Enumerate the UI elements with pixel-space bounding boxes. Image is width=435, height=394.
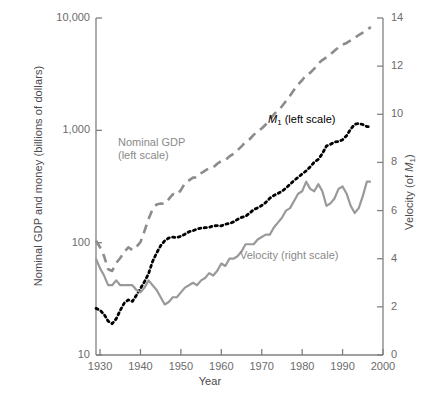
y-tick-label-right: 12	[391, 59, 403, 71]
x-tick-label: 1950	[165, 360, 197, 372]
y-axis-right-title: Velocity (of M1)	[403, 112, 417, 272]
x-tick-label: 1930	[84, 360, 116, 372]
series-label-m1-suffix: (left scale)	[282, 113, 336, 125]
x-tick-label: 2000	[367, 360, 399, 372]
series-label-nominal-gdp-line2: (left scale)	[118, 149, 185, 162]
y-tick-label-right: 10	[391, 107, 403, 119]
x-tick-label: 1970	[246, 360, 278, 372]
y-tick-label-right: 4	[391, 252, 397, 264]
series-label-m1: M1 (left scale)	[268, 113, 335, 129]
series-label-nominal-gdp: Nominal GDP (left scale)	[118, 136, 185, 162]
y-tick-label-left: 10,000	[24, 11, 90, 23]
y-axis-right-title-prefix: Velocity (of	[403, 172, 415, 230]
y-tick-label-right: 14	[391, 11, 403, 23]
x-tick-label: 1980	[286, 360, 318, 372]
y-tick-label-right: 6	[391, 204, 397, 216]
y-axis-right-title-symbol: M	[403, 162, 415, 171]
x-tick-label: 1940	[124, 360, 156, 372]
chart-plot-area	[0, 0, 435, 394]
x-tick-label: 1960	[205, 360, 237, 372]
y-axis-left-title: Nominal GDP and money (billions of dolla…	[32, 56, 44, 296]
x-axis-title: Year	[150, 375, 270, 387]
y-axis-right-title-suffix: )	[403, 154, 415, 158]
series-label-nominal-gdp-line1: Nominal GDP	[118, 136, 185, 149]
y-tick-label-left: 100	[24, 236, 90, 248]
series-label-velocity: Velocity (right scale)	[240, 249, 338, 262]
y-tick-label-left: 1,000	[24, 123, 90, 135]
chart-figure: Nominal GDP and money (billions of dolla…	[0, 0, 435, 394]
x-tick-label: 1990	[327, 360, 359, 372]
y-tick-label-left: 10	[24, 348, 90, 360]
series-label-m1-symbol: M	[268, 113, 277, 125]
y-tick-label-right: 8	[391, 155, 397, 167]
y-tick-label-right: 2	[391, 300, 397, 312]
y-axis-right-title-subscript: 1	[408, 158, 417, 163]
y-tick-label-right: 0	[391, 348, 397, 360]
series-path-velocity-right-scale	[96, 182, 371, 305]
